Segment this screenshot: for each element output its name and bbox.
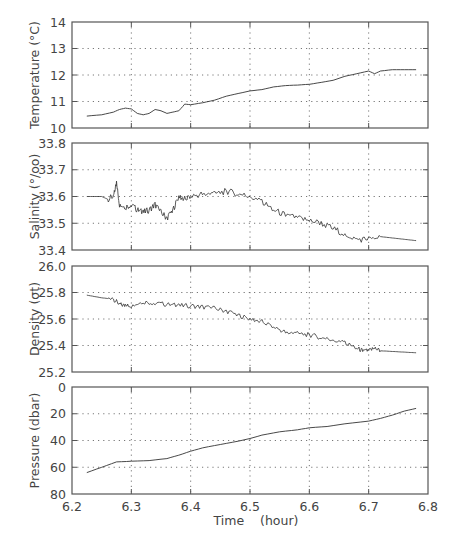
y-axis-label: Temperature (°C) [27, 21, 42, 130]
y-tick-label: 26.0 [38, 259, 66, 274]
series-line-salinity [87, 181, 416, 242]
x-tick-label: 6.4 [181, 499, 201, 514]
y-tick-label: 60 [50, 460, 66, 475]
y-tick-label: 33.7 [38, 162, 66, 177]
series-line-pressure [87, 408, 416, 472]
y-tick-label: 14 [50, 15, 66, 30]
y-tick-label: 25.2 [38, 365, 66, 380]
x-tick-label: 6.5 [240, 499, 260, 514]
y-tick-label: 11 [50, 94, 66, 109]
y-tick-label: 40 [50, 433, 66, 448]
series-line-density [87, 295, 416, 353]
y-tick-label: 33.5 [38, 216, 66, 231]
shared-x-axis: 6.26.36.46.56.66.76.8 [62, 499, 438, 514]
series-line-temperature [87, 70, 416, 116]
y-tick-label: 25.8 [38, 285, 66, 300]
y-tick-label: 33.4 [38, 243, 66, 258]
y-axis-label: Salinity (°/oo) [27, 154, 42, 240]
oceanographic-time-series-figure: 1413121110Temperature (°C)33.833.733.633… [0, 0, 451, 540]
y-tick-label: 33.6 [38, 189, 66, 204]
y-tick-label: 20 [50, 406, 66, 421]
y-tick-label: 25.4 [38, 338, 66, 353]
y-axis-label: Density (σt) [27, 282, 42, 356]
panel-temperature: 1413121110Temperature (°C) [27, 15, 428, 136]
x-tick-label: 6.8 [418, 499, 438, 514]
panel-pressure: 020406080Pressure (dbar) [27, 380, 428, 502]
x-tick-label: 6.2 [62, 499, 82, 514]
panel-salinity: 33.833.733.633.533.4Salinity (°/oo) [27, 136, 428, 258]
y-axis-label: Pressure (dbar) [27, 393, 42, 489]
y-tick-label: 10 [50, 121, 66, 136]
y-tick-label: 0 [58, 380, 66, 395]
y-tick-label: 25.6 [38, 312, 66, 327]
x-tick-label: 6.3 [121, 499, 141, 514]
y-tick-label: 33.8 [38, 136, 66, 151]
panel-density: 26.025.825.625.425.2Density (σt) [27, 259, 428, 380]
x-tick-label: 6.7 [359, 499, 379, 514]
y-tick-label: 12 [50, 68, 66, 83]
x-tick-label: 6.6 [299, 499, 319, 514]
y-tick-label: 13 [50, 41, 66, 56]
x-axis-label: Time (hour) [213, 513, 299, 528]
